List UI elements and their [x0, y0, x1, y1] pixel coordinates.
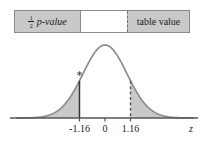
distribution-plot: * -1.16 0 1.16 z — [0, 36, 204, 145]
table-cell-half-p-value: 1 2 p-value — [15, 11, 81, 32]
left-tail-shading — [17, 81, 79, 118]
fraction-denominator: 2 — [30, 22, 33, 29]
x-tick-label-neg: -1.16 — [69, 124, 90, 134]
normal-curve-figure: 1 2 p-value table value — [0, 0, 204, 145]
half-p-value-label: 1 2 p-value — [28, 15, 67, 29]
table-cell-empty — [81, 11, 127, 32]
right-tail-shading — [131, 81, 193, 118]
x-tick-label-pos: 1.16 — [122, 124, 140, 134]
value-table-strip: 1 2 p-value table value — [14, 10, 190, 33]
x-tick-label-zero: 0 — [103, 124, 108, 134]
one-half-fraction: 1 2 — [28, 15, 34, 29]
p-value-text: p-value — [37, 17, 67, 27]
table-value-label: table value — [137, 17, 181, 27]
normal-density-curve — [17, 45, 193, 118]
x-axis-label: z — [189, 124, 193, 134]
asterisk-annotation: * — [77, 69, 83, 80]
table-cell-table-value: table value — [127, 11, 189, 32]
